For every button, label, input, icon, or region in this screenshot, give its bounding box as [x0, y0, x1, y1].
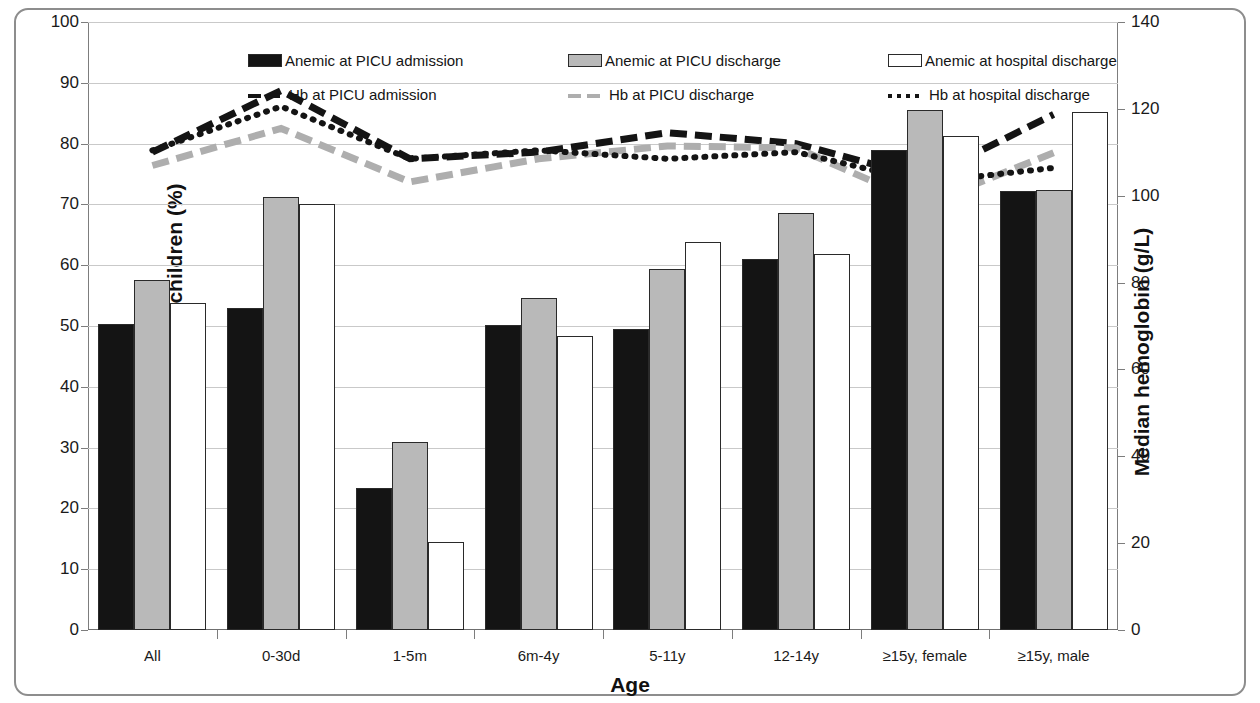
bar	[685, 242, 721, 630]
y-tick-label-right: 140	[1131, 12, 1159, 32]
bar	[557, 336, 593, 630]
bar	[170, 303, 206, 630]
x-category-label: 12-14y	[773, 647, 819, 664]
y-tick-label-left: 100	[51, 12, 79, 32]
x-axis-tick	[732, 630, 733, 639]
bar	[1000, 191, 1036, 630]
y-tick-mark-left	[81, 265, 88, 266]
bar	[943, 136, 979, 630]
bar	[428, 542, 464, 630]
bar	[871, 150, 907, 630]
y-tick-mark-left	[81, 387, 88, 388]
bar	[392, 442, 428, 630]
x-axis-tick	[346, 630, 347, 639]
y-tick-label-left: 0	[70, 620, 79, 640]
bar	[613, 329, 649, 630]
bar	[263, 197, 299, 630]
y-tick-mark-right	[1118, 630, 1125, 631]
y-tick-label-right: 0	[1131, 620, 1140, 640]
bar	[1036, 190, 1072, 630]
y-tick-label-right: 40	[1131, 446, 1150, 466]
y-tick-label-right: 80	[1131, 273, 1150, 293]
y-tick-label-left: 60	[60, 255, 79, 275]
y-tick-label-right: 20	[1131, 533, 1150, 553]
y-tick-mark-right	[1118, 283, 1125, 284]
y-tick-label-left: 50	[60, 316, 79, 336]
x-category-label: 6m-4y	[518, 647, 560, 664]
y-tick-label-left: 40	[60, 377, 79, 397]
bar	[356, 488, 392, 630]
y-tick-mark-right	[1118, 109, 1125, 110]
bar	[742, 259, 778, 630]
bar	[485, 325, 521, 630]
y-tick-mark-right	[1118, 196, 1125, 197]
y-tick-mark-left	[81, 204, 88, 205]
bar	[227, 308, 263, 630]
y-tick-mark-right	[1118, 456, 1125, 457]
bar	[1072, 112, 1108, 630]
y-tick-mark-left	[81, 569, 88, 570]
x-axis-label: Age	[0, 673, 1260, 697]
x-category-label: ≥15y, male	[1018, 647, 1090, 664]
y-axis-label-right: Median hemoglobin (g/L)	[1130, 227, 1154, 475]
bar	[814, 254, 850, 630]
bar	[907, 110, 943, 630]
x-category-label: 1-5m	[393, 647, 427, 664]
y-tick-mark-left	[81, 326, 88, 327]
bar	[299, 204, 335, 630]
y-tick-mark-left	[81, 448, 88, 449]
x-category-label: ≥15y, female	[883, 647, 968, 664]
y-tick-mark-left	[81, 508, 88, 509]
y-tick-mark-left	[81, 83, 88, 84]
plot-area: 0102030405060708090100 02040608010012014…	[88, 22, 1118, 630]
y-tick-mark-left	[81, 630, 88, 631]
bar	[778, 213, 814, 630]
bar	[521, 298, 557, 630]
x-axis-tick	[217, 630, 218, 639]
y-tick-mark-right	[1118, 543, 1125, 544]
x-category-label: 5-11y	[649, 647, 685, 664]
x-axis-tick	[474, 630, 475, 639]
x-axis-tick	[861, 630, 862, 639]
y-tick-mark-left	[81, 22, 88, 23]
y-tick-label-right: 120	[1131, 99, 1159, 119]
y-tick-label-left: 10	[60, 559, 79, 579]
x-category-label: All	[144, 647, 161, 664]
y-tick-mark-right	[1118, 22, 1125, 23]
chart-figure: Proportion of anemic children (%) Median…	[0, 0, 1260, 703]
y-tick-label-right: 100	[1131, 186, 1159, 206]
x-category-label: 0-30d	[262, 647, 300, 664]
x-axis-tick	[989, 630, 990, 639]
y-tick-mark-left	[81, 144, 88, 145]
bar	[98, 324, 134, 630]
y-tick-label-left: 70	[60, 194, 79, 214]
bar	[649, 269, 685, 630]
y-tick-label-left: 90	[60, 73, 79, 93]
y-tick-label-right: 60	[1131, 359, 1150, 379]
y-tick-label-left: 30	[60, 438, 79, 458]
x-axis-tick	[603, 630, 604, 639]
y-tick-label-left: 80	[60, 134, 79, 154]
y-tick-mark-right	[1118, 369, 1125, 370]
y-tick-label-left: 20	[60, 498, 79, 518]
bar	[134, 280, 170, 630]
